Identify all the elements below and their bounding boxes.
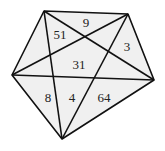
label-9: 9 [83,15,90,30]
pentagon-star-diagram: 9 51 3 31 8 4 64 [0,0,165,151]
label-51: 51 [54,27,67,42]
label-4: 4 [69,90,76,105]
label-3: 3 [124,39,131,54]
label-64: 64 [98,90,112,105]
label-8: 8 [45,90,52,105]
label-31: 31 [73,57,86,72]
